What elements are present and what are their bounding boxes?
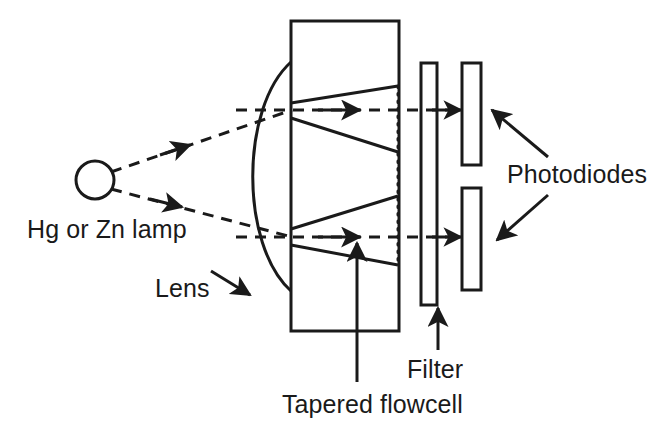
light-ray-upper-diverging <box>111 110 292 172</box>
leader-arrow-photodiode-lower <box>497 195 548 240</box>
label-lens: Lens <box>155 274 210 303</box>
light-ray-lower-arrow <box>150 199 182 207</box>
photodiode-lower-element <box>462 188 481 290</box>
flowcell-taper-wall-4 <box>291 245 398 265</box>
lens-arc <box>253 62 291 291</box>
tapered-flowcell-body <box>291 21 399 331</box>
label-photodiodes: Photodiodes <box>507 160 647 189</box>
filter-element <box>421 63 437 305</box>
leader-arrow-photodiode-upper <box>492 110 548 157</box>
photodiode-upper-element <box>462 63 481 165</box>
flowcell-taper-wall-1 <box>291 86 398 103</box>
label-lamp: Hg or Zn lamp <box>27 215 187 244</box>
label-tapered-flowcell: Tapered flowcell <box>282 390 463 419</box>
flowcell-taper-wall-2 <box>291 118 398 152</box>
optical-detector-diagram: Hg or Zn lamp Lens Photodiodes Filter Ta… <box>0 0 655 431</box>
label-filter: Filter <box>407 355 463 384</box>
leader-arrow-lens <box>211 271 250 295</box>
flowcell-taper-wall-3 <box>291 196 398 229</box>
light-ray-upper-arrow <box>160 145 190 155</box>
lamp-source-circle <box>76 161 114 199</box>
